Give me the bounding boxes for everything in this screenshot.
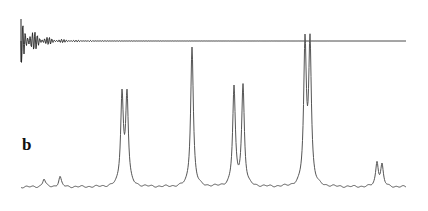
nmr-figure [0,0,428,211]
fid-trace [21,19,406,62]
spectrum-trace [21,34,406,188]
panel-label: b [22,135,31,155]
